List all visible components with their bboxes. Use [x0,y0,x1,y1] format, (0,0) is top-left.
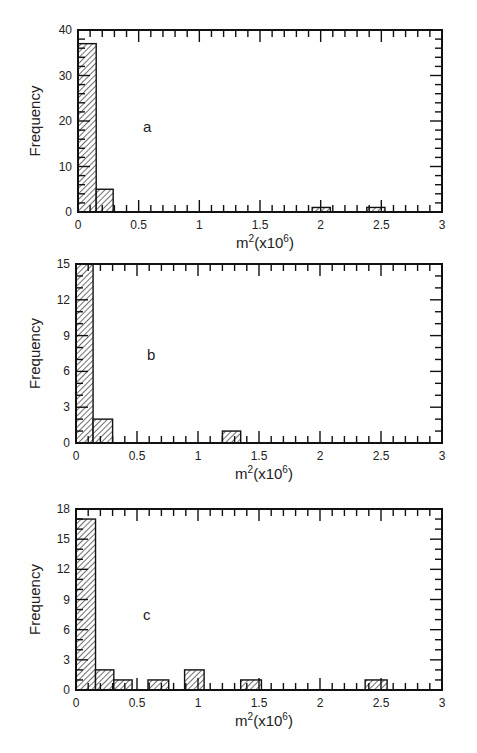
panel-label: c [143,606,151,623]
x-tick-label: 0 [75,218,82,232]
panel-label: b [147,346,155,363]
x-tick-label: 0 [73,449,80,463]
histogram-panel-c: 00.511.522.530369121518Frequencym2(x106)… [26,502,446,729]
histogram-bar [93,419,113,443]
x-tick-label: 0.5 [129,696,146,710]
histogram-bar [76,264,93,443]
histogram-bar [222,431,240,443]
y-axis-title: Frequency [26,564,43,635]
y-tick-label: 3 [63,400,70,414]
x-axis-title: m2(x106) [235,464,293,482]
x-ticks [76,264,442,443]
x-axis-title: m2(x106) [235,711,293,729]
histogram-bar [148,680,169,690]
histogram-panel-a: 00.511.522.53010203040Frequencym2(x106)a [26,23,446,251]
y-tick-label: 6 [63,623,70,637]
y-ticks [78,30,442,212]
y-ticks [76,264,442,443]
y-tick-label: 9 [63,329,70,343]
y-tick-label: 12 [57,562,71,576]
x-ticks [76,509,442,690]
x-tick-label: 3 [439,696,446,710]
y-tick-label: 12 [57,293,71,307]
x-tick-label: 2 [317,218,324,232]
x-tick-label: 1.5 [251,696,268,710]
y-axis-title: Frequency [26,85,43,156]
x-tick-label: 0.5 [130,218,147,232]
histogram-bar [114,680,132,690]
y-tick-label: 20 [59,114,73,128]
x-axis-title: m2(x106) [236,233,294,251]
x-tick-label: 1.5 [251,449,268,463]
histogram-bar [96,189,113,212]
y-tick-label: 3 [63,653,70,667]
y-tick-label: 15 [57,257,71,271]
plot-frame [78,30,442,212]
x-tick-label: 2 [317,449,324,463]
y-tick-label: 30 [59,69,73,83]
histogram-bar [76,519,96,690]
y-axis-title: Frequency [26,318,43,389]
x-tick-label: 2 [317,696,324,710]
x-tick-label: 0 [73,696,80,710]
y-tick-label: 9 [63,593,70,607]
y-tick-label: 15 [57,532,71,546]
x-tick-label: 3 [439,218,446,232]
y-tick-label: 18 [57,502,71,516]
x-tick-label: 1 [195,449,202,463]
y-tick-label: 0 [65,205,72,219]
y-tick-label: 0 [63,436,70,450]
x-tick-label: 1 [195,696,202,710]
bars [76,264,241,443]
plot-frame [76,509,442,690]
bars [76,519,387,690]
panel-label: a [143,118,152,135]
histogram-panel-b: 00.511.522.5303691215Frequencym2(x106)b [26,257,446,482]
x-tick-label: 1.5 [252,218,269,232]
bars [78,44,385,212]
histogram-bar [78,44,96,212]
plot-frame [76,264,442,443]
x-tick-label: 0.5 [129,449,146,463]
histogram-bar [96,670,114,690]
y-tick-label: 40 [59,23,73,37]
histogram-bar [185,670,205,690]
x-tick-label: 2.5 [373,696,390,710]
x-tick-label: 3 [439,449,446,463]
y-tick-label: 0 [63,683,70,697]
histogram-figure: 00.511.522.53010203040Frequencym2(x106)a… [0,0,477,753]
y-ticks [76,509,442,690]
y-tick-label: 10 [59,160,73,174]
x-tick-label: 1 [196,218,203,232]
x-ticks [78,30,442,212]
y-tick-label: 6 [63,364,70,378]
x-tick-label: 2.5 [373,449,390,463]
x-tick-label: 2.5 [373,218,390,232]
